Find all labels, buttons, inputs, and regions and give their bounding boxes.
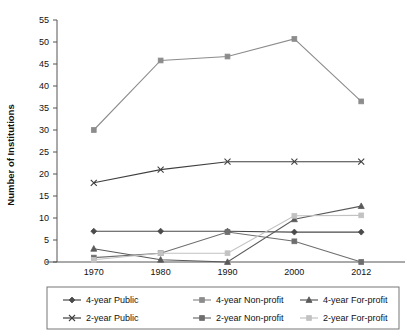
data-point — [225, 230, 230, 235]
legend-label: 2-year For-profit — [323, 313, 388, 323]
series-layer — [91, 37, 364, 265]
legend-label: 4-year Public — [86, 295, 139, 305]
y-tick-label: 20 — [39, 169, 49, 179]
legend-item-4-year-for-profit[interactable]: 4-year For-profit — [300, 295, 388, 305]
data-point — [91, 228, 97, 234]
data-point — [359, 260, 364, 265]
data-point — [91, 246, 97, 252]
data-point — [158, 58, 163, 63]
y-tick-label: 5 — [44, 235, 49, 245]
y-axis-ticks: 0510152025303540455055 — [39, 15, 57, 267]
data-point — [158, 251, 163, 256]
x-tick-label: 2000 — [284, 267, 304, 277]
legend: 4-year Public4-year Non-profit4-year For… — [63, 295, 388, 323]
y-axis-title: Number of Institutions — [5, 104, 16, 205]
y-tick-label: 35 — [39, 103, 49, 113]
y-tick-label: 10 — [39, 213, 49, 223]
legend-label: 4-year For-profit — [323, 295, 388, 305]
line-chart: Number of Institutions 05101520253035404… — [0, 0, 413, 335]
legend-marker — [200, 316, 205, 321]
y-tick-label: 40 — [39, 81, 49, 91]
y-tick-label: 15 — [39, 191, 49, 201]
x-tick-label: 1970 — [84, 267, 104, 277]
series-4-year-non-profit — [91, 37, 363, 133]
data-point — [292, 239, 297, 244]
data-point — [292, 213, 297, 218]
legend-label: 2-year Public — [86, 313, 139, 323]
legend-label: 2-year Non-profit — [216, 313, 284, 323]
data-point — [91, 128, 96, 133]
y-tick-label: 55 — [39, 15, 49, 25]
chart-container: Number of Institutions 05101520253035404… — [0, 0, 413, 335]
series-line — [94, 232, 361, 262]
legend-item-2-year-non-profit[interactable]: 2-year Non-profit — [193, 313, 284, 323]
legend-marker — [69, 297, 75, 303]
y-tick-label: 50 — [39, 37, 49, 47]
legend-item-2-year-for-profit[interactable]: 2-year For-profit — [300, 313, 388, 323]
legend-item-4-year-public[interactable]: 4-year Public — [63, 295, 139, 305]
data-point — [158, 228, 164, 234]
legend-item-4-year-non-profit[interactable]: 4-year Non-profit — [193, 295, 284, 305]
series-2-year-public — [91, 159, 364, 186]
data-point — [225, 54, 230, 59]
data-point — [292, 37, 297, 42]
data-point — [359, 99, 364, 104]
y-tick-label: 30 — [39, 125, 49, 135]
legend-item-2-year-public[interactable]: 2-year Public — [63, 313, 139, 323]
data-point — [225, 251, 230, 256]
x-tick-label: 2012 — [351, 267, 371, 277]
data-point — [358, 203, 364, 209]
data-point — [91, 257, 96, 262]
y-tick-label: 45 — [39, 59, 49, 69]
x-tick-label: 1990 — [217, 267, 237, 277]
x-tick-label: 1980 — [151, 267, 171, 277]
legend-marker — [307, 316, 312, 321]
series-line — [94, 162, 361, 183]
y-axis-label: Number of Institutions — [5, 104, 16, 205]
legend-marker — [200, 298, 205, 303]
legend-label: 4-year Non-profit — [216, 295, 284, 305]
data-point — [358, 229, 364, 235]
x-axis-ticks: 19701980199020002012 — [84, 267, 371, 277]
y-tick-label: 25 — [39, 147, 49, 157]
data-point — [291, 229, 297, 235]
data-point — [359, 213, 364, 218]
series-line — [94, 39, 361, 130]
